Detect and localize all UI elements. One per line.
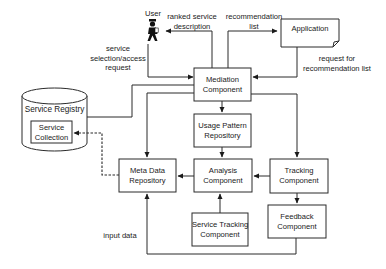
meta-data-line2: Repository (119, 176, 176, 186)
service-collection-label: Service Collection (31, 123, 72, 142)
service-tracking-line2: Component (192, 230, 248, 240)
application-label: Application (281, 24, 339, 34)
meta-data-line1: Meta Data (119, 166, 176, 176)
edge-mediation-to-metadata (147, 93, 194, 157)
service-tracking-line1: Service Tracking (192, 220, 248, 230)
service-collection-line2: Collection (31, 133, 72, 143)
edge-mediation-to-tracking (251, 94, 297, 157)
edge-mediation-to-user (166, 31, 212, 68)
ranked-line2: description (167, 22, 217, 32)
edge-user-to-mediation (148, 44, 193, 77)
input-data-label: input data (100, 231, 140, 241)
usage-pattern-label: Usage Pattern Repository (194, 121, 251, 140)
edge-registry-to-mediation (87, 85, 194, 117)
request-for-line2: recommendation list (302, 64, 372, 74)
mediation-line1: Mediation (194, 75, 251, 85)
service-selection-label: service selection/access request (90, 44, 146, 73)
ranked-line1: ranked service (167, 12, 217, 22)
recommendation-line2: list (224, 22, 284, 32)
edge-mediation-to-application (228, 31, 277, 68)
service-selection-line3: request (90, 63, 146, 73)
service-registry-label: Service Registry (22, 105, 87, 115)
user-label: User (140, 9, 166, 19)
analysis-label: Analysis Component (194, 166, 252, 185)
analysis-line2: Component (194, 176, 252, 186)
recommendation-line1: recommendation (224, 12, 284, 22)
feedback-line1: Feedback (268, 212, 326, 222)
tracking-line2: Component (270, 176, 328, 186)
request-for-label: request for recommendation list (302, 54, 372, 73)
meta-data-label: Meta Data Repository (119, 166, 176, 185)
service-selection-line1: service (90, 44, 146, 54)
usage-pattern-line1: Usage Pattern (194, 121, 251, 131)
service-tracking-label: Service Tracking Component (192, 220, 248, 239)
edge-application-to-mediation (253, 47, 297, 77)
service-selection-line2: selection/access (90, 54, 146, 64)
feedback-line2: Component (268, 222, 326, 232)
ranked-service-label: ranked service description (167, 12, 217, 31)
mediation-line2: Component (194, 85, 251, 95)
user-icon (148, 19, 159, 41)
analysis-line1: Analysis (194, 166, 252, 176)
tracking-label: Tracking Component (270, 166, 328, 185)
recommendation-list-label: recommendation list (224, 12, 284, 31)
usage-pattern-line2: Repository (194, 131, 251, 141)
request-for-line1: request for (302, 54, 372, 64)
feedback-label: Feedback Component (268, 212, 326, 231)
service-collection-line1: Service (31, 123, 72, 133)
tracking-line1: Tracking (270, 166, 328, 176)
mediation-label: Mediation Component (194, 75, 251, 94)
